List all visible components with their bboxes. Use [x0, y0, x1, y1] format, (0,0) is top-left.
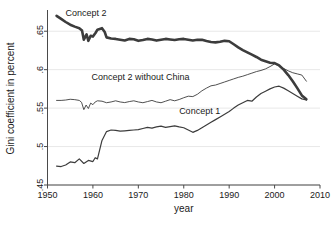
y-tick-label: .65 [35, 25, 45, 38]
chart-canvas: .45.5.55.6.65 19501960197019801990200020… [0, 0, 332, 236]
series-lines-group [57, 16, 307, 167]
x-tick-label: 1980 [174, 190, 194, 200]
x-axis-ticks [48, 185, 321, 189]
x-axis-title: year [174, 203, 194, 214]
y-axis-tick-labels: .45.5.55.6.65 [35, 25, 45, 191]
x-tick-label: 1990 [219, 190, 239, 200]
series-annotations-group: Concept 2Concept 2 without ChinaConcept … [66, 8, 221, 116]
gini-coefficient-line-chart: .45.5.55.6.65 19501960197019801990200020… [0, 0, 332, 236]
x-tick-label: 1950 [37, 190, 57, 200]
y-tick-label: .6 [35, 66, 45, 74]
series-line-concept-2-without-china [57, 64, 307, 110]
x-tick-label: 2010 [310, 190, 330, 200]
y-axis-title: Gini coefficient in percent [5, 42, 16, 154]
series-label-concept-2: Concept 2 [66, 8, 107, 18]
x-tick-label: 1970 [128, 190, 148, 200]
series-line-concept-2 [57, 16, 307, 99]
series-label-concept-1: Concept 1 [179, 106, 220, 116]
y-tick-label: .55 [35, 102, 45, 115]
x-tick-label: 2000 [265, 190, 285, 200]
y-tick-label: .5 [35, 143, 45, 151]
series-label-concept-2-without-china: Concept 2 without China [92, 72, 190, 82]
x-axis-tick-labels: 1950196019701980199020002010 [37, 190, 330, 200]
x-tick-label: 1960 [83, 190, 103, 200]
